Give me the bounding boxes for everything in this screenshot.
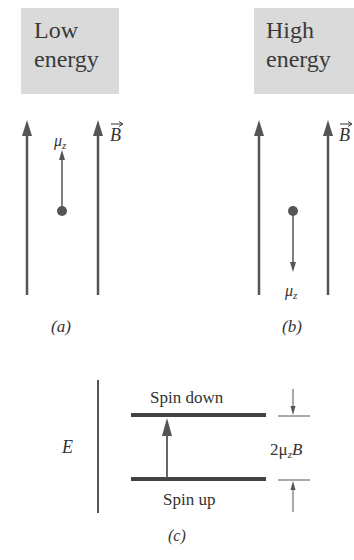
particle-dot-b [288,206,298,216]
caption-c: (c) [168,527,186,545]
energy-gap-label: 2μzB [270,440,303,460]
magnetic-moment-arrow-up [59,150,65,210]
caption-a: (a) [51,317,71,336]
field-arrow-right-a [93,120,103,295]
moment-label-b: μz [284,282,298,301]
field-arrow-right-b [323,120,333,295]
particle-dot-a [57,206,67,216]
magnetic-moment-arrow-down [290,211,296,272]
field-label-a: B [110,122,123,146]
caption-b: (b) [282,317,302,336]
panel-a: B μz (a) [22,120,123,336]
energy-axis-label: E [61,437,73,457]
svg-text:B: B [339,125,350,145]
field-arrow-left-b [254,120,264,295]
panel-b: B μz (b) [254,120,352,336]
spin-energy-diagram: B μz (a) B μz [0,0,354,560]
transition-arrow [162,418,172,478]
moment-label-a: μz [53,132,67,151]
svg-text:B: B [110,125,121,145]
field-arrow-left-a [22,120,32,295]
panel-c: E Spin down Spin up 2μzB (c) [61,380,310,545]
spin-down-label: Spin down [150,388,224,407]
spin-up-label: Spin up [163,490,215,509]
field-label-b: B [339,122,352,146]
